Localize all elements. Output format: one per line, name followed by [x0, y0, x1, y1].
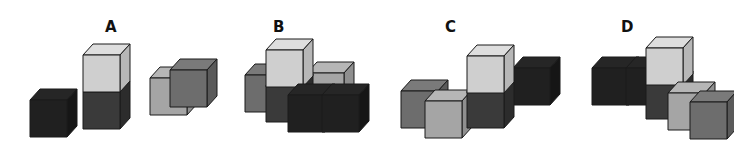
cube-stack-d	[0, 0, 734, 148]
cube	[646, 37, 693, 85]
cube	[690, 91, 734, 139]
